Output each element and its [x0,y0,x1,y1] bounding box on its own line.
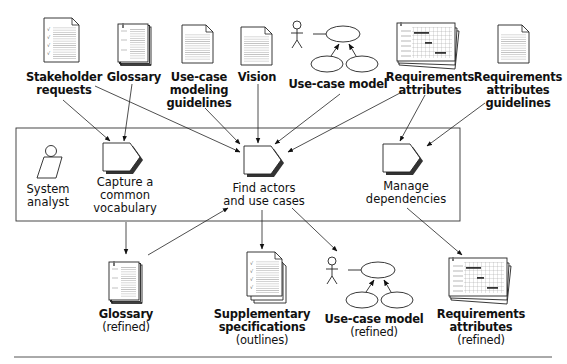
label-requirements-attributes-guidelines: Requirements attributes guidelines [474,71,562,110]
label-find-actors-and-use-cases: Find actors and use cases [223,182,305,208]
output-arrows [126,208,462,255]
label-vision: Vision [238,71,276,84]
label-glossary-refined: Glossary (refined) [99,308,153,334]
system-analyst-icon [37,146,62,179]
label-line: guidelines [166,97,231,110]
requirements-attributes-icon [397,22,459,69]
label-requirements-attributes: Requirements attributes [386,71,474,97]
label-line: attributes [386,84,474,97]
label-capture-common-vocabulary: Capture a common vocabulary [93,176,157,215]
label-line: Glossary [107,71,161,84]
label-subline: (outlines) [214,334,310,347]
label-use-case-modeling-guidelines: Use-case modeling guidelines [166,71,231,110]
label-glossary: Glossary [107,71,161,84]
label-subline: (refined) [437,334,525,347]
glossary-refined-icon [109,261,142,303]
label-use-case-model-refined: Use-case model (refined) [324,313,423,339]
label-stakeholder-requests: Stakeholder requests [26,71,102,97]
use-case-model-icon [291,21,378,72]
requirements-attributes-guidelines-icon [498,25,529,63]
manage-dependencies-activity-icon [383,144,423,175]
label-subline: (refined) [324,326,423,339]
label-use-case-model: Use-case model [288,78,387,91]
label-line: analyst [27,196,70,209]
supplementary-specifications-icon [247,252,286,303]
use-case-modeling-guidelines-icon [182,25,213,63]
capture-common-vocabulary-activity-icon [103,143,143,174]
find-actors-activity-icon [244,146,284,177]
label-system-analyst: System analyst [27,183,70,209]
label-line: guidelines [474,97,562,110]
vision-icon [241,27,272,65]
label-line: and use cases [223,195,305,208]
label-line: vocabulary [93,202,157,215]
label-subline: (refined) [99,321,153,334]
label-supplementary-specifications: Supplementary specifications (outlines) [214,308,310,347]
glossary-icon [118,23,151,65]
label-line: Vision [238,71,276,84]
label-manage-dependencies: Manage dependencies [366,180,446,206]
label-requirements-attributes-refined: Requirements attributes (refined) [437,308,525,347]
label-line: Use-case model [288,78,387,91]
stakeholder-requests-icon [44,18,79,62]
label-line: requests [26,84,102,97]
use-case-model-refined-icon [326,257,413,308]
label-line: dependencies [366,193,446,206]
requirements-attributes-refined-icon [449,257,511,304]
